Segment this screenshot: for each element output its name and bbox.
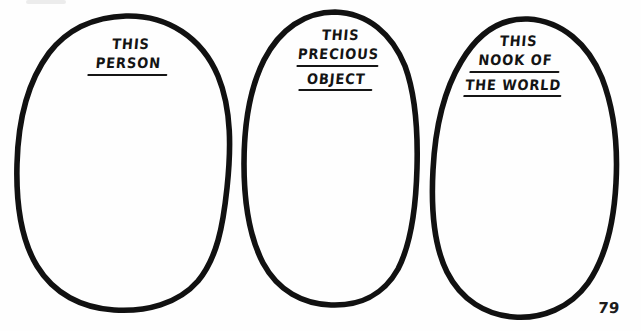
- label-underline: [298, 89, 372, 91]
- label-text: PERSON: [95, 56, 161, 71]
- label-underline: [463, 95, 561, 97]
- page-number: 79: [597, 299, 620, 317]
- oval-label-this-nook-of-the-world: THIS NOOK OF THE WORLD: [453, 33, 577, 97]
- label-line: THIS: [288, 27, 392, 43]
- comic-page: THIS PERSON THIS PRECIOUS OBJECT THIS NO…: [0, 0, 641, 331]
- label-text: OBJECT: [306, 72, 366, 87]
- oval-label-this-precious-object: THIS PRECIOUS OBJECT: [283, 27, 393, 91]
- label-line: OBJECT: [283, 71, 389, 92]
- label-text: THIS: [499, 34, 538, 49]
- label-line: PRECIOUS: [285, 46, 391, 67]
- label-line: THE WORLD: [453, 77, 573, 98]
- label-text: NOOK OF: [478, 53, 553, 68]
- label-underline: [87, 74, 167, 76]
- label-text: PRECIOUS: [297, 47, 379, 62]
- label-text: THIS: [112, 37, 151, 52]
- label-underline: [296, 65, 378, 67]
- label-line: THIS: [76, 36, 185, 52]
- oval-label-this-person: THIS PERSON: [72, 36, 185, 76]
- label-underline: [469, 71, 559, 73]
- label-line: NOOK OF: [455, 52, 575, 73]
- label-line: PERSON: [72, 55, 184, 76]
- label-text: THE WORLD: [465, 78, 562, 93]
- label-text: THIS: [321, 28, 360, 43]
- label-line: THIS: [460, 33, 576, 49]
